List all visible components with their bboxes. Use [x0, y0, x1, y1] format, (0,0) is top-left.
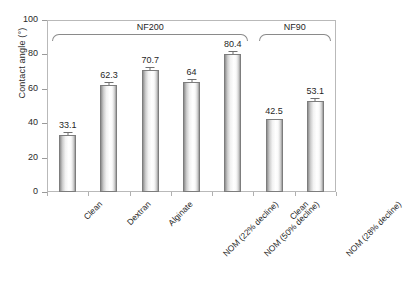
error-bar-cap [63, 132, 72, 133]
error-bar [191, 80, 192, 82]
bar[interactable] [183, 82, 200, 192]
error-bar-cap [228, 51, 237, 52]
y-tick-label: 60 [28, 83, 38, 93]
bar-group[interactable] [142, 70, 159, 192]
group-bracket [52, 34, 248, 41]
bar-value-label: 33.1 [59, 120, 77, 130]
error-bar [315, 99, 316, 101]
bar[interactable] [224, 54, 241, 192]
bar[interactable] [266, 119, 283, 192]
bar-value-label: 53.1 [307, 86, 325, 96]
error-bar [108, 83, 109, 85]
error-bar [150, 68, 151, 70]
bar-group[interactable] [59, 135, 76, 192]
y-tick-label: 0 [33, 186, 38, 196]
x-tick-mark [171, 192, 172, 196]
category-label: Alginate [166, 199, 195, 228]
bar-group[interactable] [183, 82, 200, 192]
bar-value-label: 70.7 [141, 55, 159, 65]
error-bar-cap [187, 79, 196, 80]
error-bar-cap [311, 98, 320, 99]
group-bracket-label: NF90 [284, 22, 306, 32]
category-label: NOM (28% decline) [344, 199, 404, 259]
group-bracket [259, 34, 331, 41]
x-tick-mark [130, 192, 131, 196]
error-bar-cap [146, 67, 155, 68]
x-tick-mark [253, 192, 254, 196]
error-bar-cap [104, 82, 113, 83]
x-tick-mark [88, 192, 89, 196]
bar-group[interactable] [224, 54, 241, 192]
category-label: Clean [81, 199, 104, 222]
bar[interactable] [100, 85, 117, 192]
x-tick-mark [47, 192, 48, 196]
bar[interactable] [142, 70, 159, 192]
y-tick-label: 20 [28, 152, 38, 162]
x-tick-mark [212, 192, 213, 196]
bar-value-label: 64 [186, 67, 196, 77]
bar-value-label: 42.5 [265, 106, 283, 116]
y-tick-label: 80 [28, 48, 38, 58]
bar-value-label: 62.3 [100, 70, 118, 80]
error-bar [67, 133, 68, 135]
bars-layer [47, 20, 336, 192]
group-bracket-label: NF200 [137, 22, 164, 32]
bar-group[interactable] [100, 85, 117, 192]
y-tick-label: 40 [28, 117, 38, 127]
y-tick-label: 100 [23, 14, 38, 24]
bar-group[interactable] [266, 119, 283, 192]
bar[interactable] [59, 135, 76, 192]
bar[interactable] [307, 101, 324, 192]
bar-group[interactable] [307, 101, 324, 192]
error-bar [232, 52, 233, 54]
category-label: Dextran [125, 199, 153, 227]
x-tick-mark [336, 192, 337, 196]
x-tick-mark [295, 192, 296, 196]
